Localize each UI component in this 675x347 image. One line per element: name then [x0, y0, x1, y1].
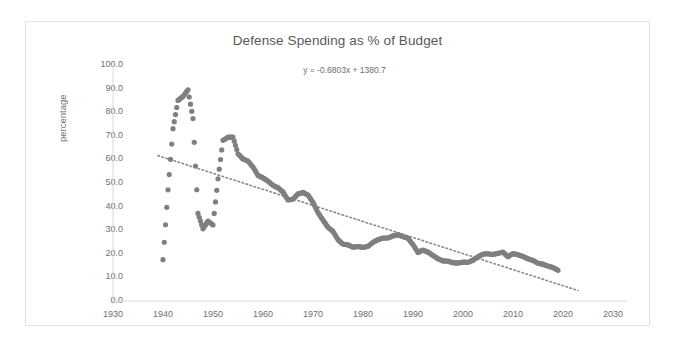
data-point [218, 157, 223, 162]
data-point [162, 240, 167, 245]
data-point [187, 94, 192, 99]
data-point [193, 163, 198, 168]
data-point [163, 222, 168, 227]
data-point [170, 126, 175, 131]
data-point [188, 102, 193, 107]
data-point [212, 211, 217, 216]
chart-container: Defense Spending as % of Budget y = -0.6… [25, 21, 650, 326]
trendline [158, 156, 578, 291]
data-point [160, 257, 165, 262]
data-point [192, 140, 197, 145]
data-point [219, 147, 224, 152]
data-point [174, 105, 179, 110]
data-point [164, 205, 169, 210]
data-point [190, 116, 195, 121]
data-point [210, 222, 215, 227]
data-point [215, 176, 220, 181]
data-point [172, 119, 177, 124]
data-point [165, 187, 170, 192]
data-point [185, 87, 190, 92]
data-point [214, 188, 219, 193]
data-point [555, 268, 560, 273]
data-point [167, 172, 172, 177]
data-point [189, 109, 194, 114]
data-point [213, 199, 218, 204]
scatter-plot [26, 22, 651, 327]
data-point [217, 167, 222, 172]
data-series [160, 87, 560, 273]
data-point [169, 141, 174, 146]
data-point [194, 187, 199, 192]
data-point [173, 112, 178, 117]
data-point [168, 157, 173, 162]
